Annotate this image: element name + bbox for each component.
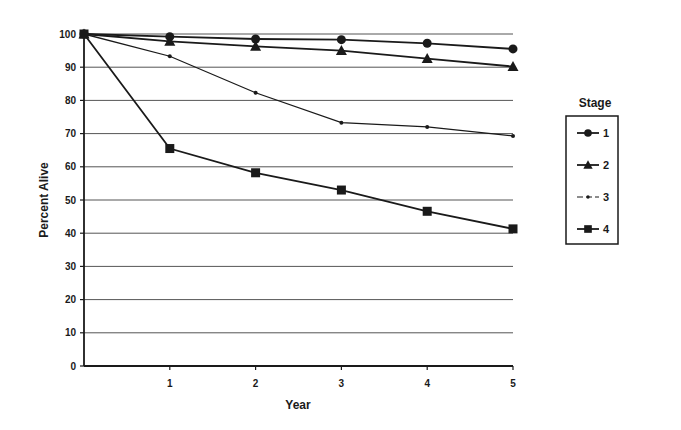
dot-marker-icon (339, 121, 343, 125)
square-marker-icon (80, 30, 89, 39)
x-tick-label: 4 (424, 378, 430, 389)
square-marker-icon (251, 168, 260, 177)
y-tick-label: 10 (65, 327, 77, 338)
x-tick-label: 5 (510, 378, 516, 389)
square-marker-icon (584, 225, 592, 233)
legend-label: 4 (603, 223, 610, 235)
circle-marker-icon (423, 39, 432, 48)
dot-marker-icon (586, 195, 589, 198)
legend-title: Stage (579, 96, 612, 110)
square-marker-icon (337, 186, 346, 195)
square-marker-icon (165, 144, 174, 153)
dot-marker-icon (168, 54, 172, 58)
legend-item-stage-1: 1 (577, 127, 609, 139)
y-tick-label: 50 (65, 195, 77, 206)
dot-marker-icon (254, 91, 258, 95)
series-lines (79, 29, 519, 234)
legend-label: 3 (603, 191, 609, 203)
legend-label: 2 (603, 159, 609, 171)
legend-box (566, 116, 618, 244)
y-tick-label: 30 (65, 261, 77, 272)
legend: Stage 1234 (566, 96, 618, 244)
y-axis-title: Percent Alive (37, 162, 51, 238)
y-axis-ticks: 0102030405060708090100 (59, 29, 84, 372)
dot-marker-icon (425, 125, 429, 129)
x-tick-label: 2 (253, 378, 259, 389)
y-tick-label: 70 (65, 128, 77, 139)
x-tick-label: 1 (167, 378, 173, 389)
legend-item-stage-2: 2 (577, 159, 609, 171)
y-tick-label: 0 (70, 361, 76, 372)
legend-item-stage-3: 3 (577, 191, 609, 203)
series-line (84, 34, 513, 49)
gridlines (84, 34, 513, 333)
survival-line-chart: 0102030405060708090100 12345 Percent Ali… (0, 0, 681, 430)
y-tick-label: 90 (65, 62, 77, 73)
circle-marker-icon (509, 44, 518, 53)
y-tick-label: 80 (65, 95, 77, 106)
legend-label: 1 (603, 127, 609, 139)
x-tick-label: 3 (339, 378, 345, 389)
x-axis-title: Year (285, 398, 311, 412)
dot-marker-icon (511, 134, 515, 138)
square-marker-icon (423, 207, 432, 216)
y-tick-label: 100 (59, 29, 76, 40)
circle-marker-icon (337, 35, 346, 44)
legend-item-stage-4: 4 (577, 223, 610, 235)
y-tick-label: 20 (65, 294, 77, 305)
square-marker-icon (509, 224, 518, 233)
y-tick-label: 60 (65, 161, 77, 172)
x-axis-ticks: 12345 (167, 366, 516, 389)
circle-marker-icon (584, 129, 592, 137)
y-tick-label: 40 (65, 228, 77, 239)
